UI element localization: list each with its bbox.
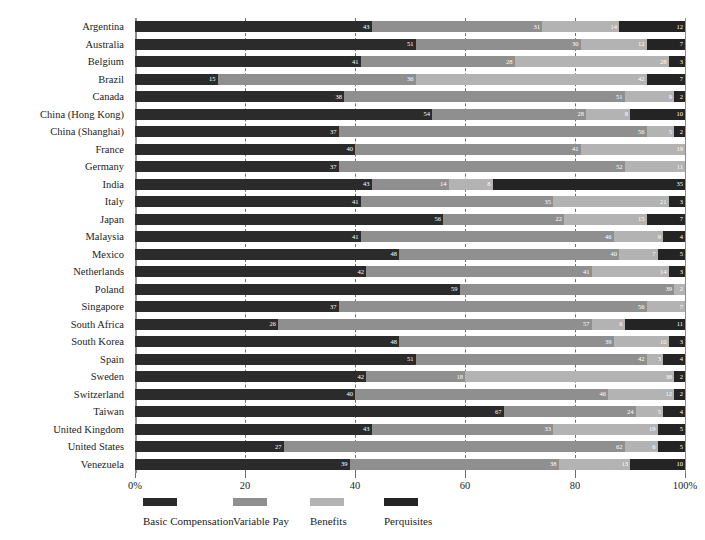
category-label: United States [0,441,124,452]
category-label: South Africa [0,319,124,330]
bar-segment: 57 [278,319,592,330]
bar-segment: 42 [416,74,647,85]
category-label: India [0,179,124,190]
bar-segment-value: 39 [341,461,348,468]
bar-segment-value: 26 [270,321,277,328]
bar-segment-value: 14 [660,269,667,276]
bar-segment-value: 56 [638,304,645,311]
bar-segment: 40 [135,389,355,400]
bar-row: 375652 [135,126,685,137]
x-tick [685,473,686,478]
bar-segment-value: 18 [457,374,464,381]
bar-segment-value: 2 [680,286,683,293]
legend-item[interactable]: Perquisites [384,498,432,527]
bar-segment: 52 [339,161,625,172]
bar-row: 4046122 [135,389,685,400]
category-label: Singapore [0,301,124,312]
bar-segment: 4 [663,354,685,365]
bar-segment: 46 [355,389,608,400]
category-label: Venezuela [0,459,124,470]
bar-segment-value: 4 [680,356,683,363]
bar-segment: 39 [135,459,350,470]
bar-segment: 7 [647,39,686,50]
bar-segment: 5 [658,441,686,452]
bar-segment-value: 40 [611,251,618,258]
bar-row: 4135213 [135,196,685,207]
bar-segment: 28 [515,56,669,67]
bar-segment-value: 46 [600,391,607,398]
bar-segment: 56 [339,126,647,137]
bar-segment: 15 [564,214,647,225]
category-label: Malaysia [0,231,124,242]
x-tick [135,473,136,478]
bar-segment: 37 [135,126,339,137]
bar-segment: 27 [135,441,284,452]
bar-segment-value: 5 [680,444,683,451]
bar-segment-value: 4 [680,234,683,241]
bar-segment: 4 [663,406,685,417]
category-label: Mexico [0,249,124,260]
category-label: Canada [0,91,124,102]
bar-row: 4241143 [135,266,685,277]
bar-segment: 9 [625,91,675,102]
bar-segment-value: 12 [638,41,645,48]
bar-segment: 51 [135,354,416,365]
category-label: Japan [0,214,124,225]
bar-segment: 33 [372,424,554,435]
bar-row: 404119 [135,144,685,155]
bar-row: 5622157 [135,214,685,225]
bar-segment-value: 36 [407,76,414,83]
bar-segment-value: 6 [652,444,655,451]
bar-segment-value: 7 [680,304,683,311]
bar-segment-value: 24 [627,409,634,416]
bar-segment-value: 6 [619,321,622,328]
bar-segment: 41 [135,196,361,207]
bar-segment: 38 [465,371,674,382]
bar-segment: 67 [135,406,504,417]
bar-segment: 39 [460,284,675,295]
bar-segment-value: 11 [677,164,683,171]
legend-label: Perquisites [384,515,432,527]
category-label: South Korea [0,336,124,347]
bar-row: 4314835 [135,179,685,190]
bar-segment-value: 3 [680,269,683,276]
category-label: China (Shanghai) [0,126,124,137]
bar-segment-value: 15 [209,76,216,83]
bar-segment: 35 [493,179,686,190]
bar-row: 4333195 [135,424,685,435]
bar-segment: 7 [647,74,686,85]
plot-area: 4331141251301274128283153642738519254288… [135,18,685,473]
bar-segment-value: 10 [677,461,684,468]
bar-segment-value: 19 [649,426,656,433]
bar-segment-value: 2 [680,129,683,136]
bar-segment-value: 41 [352,59,359,66]
bar-segment: 9 [614,231,664,242]
bar-row: 1536427 [135,74,685,85]
bar-segment: 2 [674,284,685,295]
bar-segment: 6 [592,319,625,330]
bar-segment: 14 [542,21,619,32]
bar-segment-value: 42 [358,269,365,276]
bar-segment: 7 [647,301,686,312]
bar-segment: 14 [372,179,449,190]
bar-segment: 41 [135,56,361,67]
bar-segment-value: 2 [680,374,683,381]
bar-segment-value: 37 [330,129,337,136]
legend-label: Variable Pay [233,515,289,527]
bar-segment: 35 [361,196,554,207]
bar-segment: 36 [218,74,416,85]
legend-item[interactable]: Variable Pay [233,498,289,527]
bar-segment: 8 [449,179,493,190]
bar-segment: 28 [432,109,586,120]
legend-item[interactable]: Benefits [310,498,347,527]
legend-swatch [310,498,344,506]
bar-segment: 51 [135,39,416,50]
bar-segment: 7 [619,249,658,260]
bar-segment-value: 57 [583,321,590,328]
bar-segment-value: 56 [638,129,645,136]
bar-segment-value: 33 [545,426,552,433]
bar-segment: 14 [592,266,669,277]
category-label: Taiwan [0,406,124,417]
bar-segment-value: 39 [605,339,612,346]
legend-item[interactable]: Basic Compensation [143,498,234,527]
